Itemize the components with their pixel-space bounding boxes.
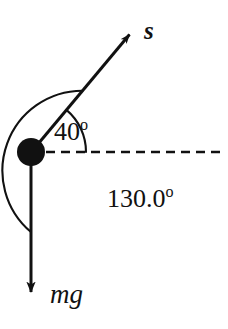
vector-s-label: s — [144, 18, 154, 43]
particle-mass — [17, 138, 45, 166]
diagram-canvas — [0, 0, 228, 329]
angle-large-degree-symbol: o — [166, 183, 174, 200]
vector-mg-label: mg — [50, 281, 83, 308]
angle-small-value: 40 — [54, 117, 80, 146]
physics-vector-diagram: s mg 40o 130.0o — [0, 0, 228, 329]
angle-small-label: 40o — [54, 119, 88, 145]
angle-arc-large — [2, 91, 82, 232]
angle-large-label: 130.0o — [107, 186, 174, 212]
angle-large-value: 130.0 — [107, 184, 166, 213]
angle-small-degree-symbol: o — [80, 116, 88, 133]
